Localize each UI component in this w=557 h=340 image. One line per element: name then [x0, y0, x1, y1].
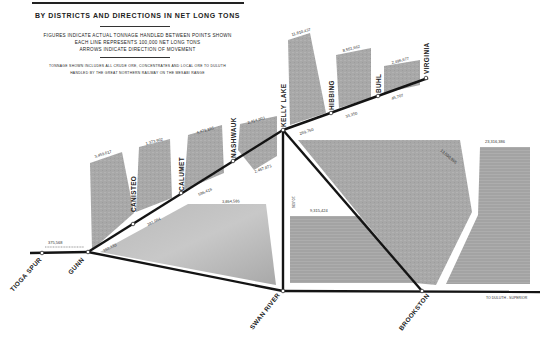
kelly-east-flow-band — [238, 116, 277, 170]
node-brookston[interactable] — [420, 289, 424, 293]
station-label-tioga-spur: TIOGA SPUR — [9, 256, 43, 293]
node-gunn[interactable] — [86, 250, 90, 254]
station-label-buhl: BUHL — [375, 74, 382, 93]
calumet-flow-band — [136, 139, 172, 212]
kelly-lake-flow-band — [288, 33, 326, 125]
station-label-gunn: GUNN — [67, 256, 86, 276]
flow-value-swan-brookston: 9,315,424 — [310, 208, 329, 213]
station-label-canisteo: CANISTEO — [130, 176, 137, 212]
flow-value-kelly-swan: 10,436 — [291, 196, 296, 209]
node-hibbing[interactable] — [329, 111, 333, 115]
station-label-nashwauk: NASHWAUK — [230, 117, 237, 158]
station-label-virginia: VIRGINIA — [423, 42, 430, 74]
node-tioga-spur[interactable] — [40, 251, 44, 255]
node-swan-river[interactable] — [281, 289, 285, 293]
node-kelly-lake[interactable] — [281, 128, 285, 132]
node-canisteo[interactable] — [131, 222, 135, 226]
flow-value-tioga-gunn: 375,568 — [48, 240, 63, 245]
station-label-kelly-lake: KELLY LAKE — [280, 83, 287, 127]
destination-label: TO DULUTH - SUPERIOR — [486, 296, 528, 300]
flow-value-gunn-swan: 3,864,586 — [222, 198, 241, 204]
station-label-hibbing: HIBBING — [328, 80, 335, 110]
station-label-swan-river: SWAN RIVER — [248, 291, 281, 330]
flow-value-brookston-duluth: 23,316,386 — [485, 139, 506, 144]
canisteo-flow-band — [90, 152, 134, 250]
flow-value-hibbing-buhl: 33,350 — [345, 110, 359, 119]
node-nashwauk[interactable] — [231, 159, 235, 163]
flow-value-kelly-hibbing: 269,760 — [299, 126, 315, 135]
flow-diagram: TIOGA SPUR GUNN CANISTEO CALUMET NASHWAU… — [0, 0, 557, 340]
station-label-brookston: BROOKSTON — [397, 292, 430, 332]
flow-value-calumet-nashwauk: 596,416 — [197, 186, 213, 197]
node-virginia[interactable] — [424, 76, 428, 80]
node-buhl[interactable] — [376, 94, 380, 98]
flow-value-buhl-virginia: 45,707 — [391, 92, 405, 101]
station-label-calumet: CALUMET — [178, 157, 185, 191]
hibbing-flow-band — [336, 48, 371, 108]
